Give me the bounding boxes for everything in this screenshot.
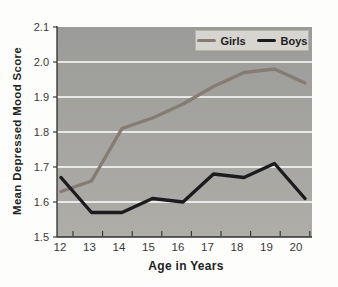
y-tick-label: 1.9 (34, 91, 49, 103)
boys-line-swatch (257, 39, 276, 42)
x-tick-label: 16 (172, 241, 185, 253)
x-tick-label: 14 (113, 241, 126, 253)
y-tick-label: 1.7 (34, 161, 49, 173)
y-tick-label: 2.1 (34, 21, 49, 33)
y-axis-title: Mean Depressed Mood Score (11, 47, 23, 215)
x-axis-title: Age in Years (148, 259, 223, 273)
x-tick-label: 18 (231, 241, 244, 253)
x-tick-label: 17 (201, 241, 214, 253)
x-tick-label: 15 (142, 241, 155, 253)
y-tick-label: 2.0 (34, 56, 49, 68)
legend-item-girls: Girls (197, 35, 246, 47)
girls-line-swatch (197, 39, 216, 42)
depressed-mood-chart: 1.51.61.71.81.92.02.1121314151617181920 … (0, 0, 338, 287)
y-tick-label: 1.8 (34, 126, 49, 138)
x-tick-label: 19 (260, 241, 273, 253)
legend-label-girls: Girls (221, 35, 246, 47)
y-tick-label: 1.5 (34, 231, 49, 243)
x-tick-label: 20 (290, 241, 303, 253)
y-tick-label: 1.6 (34, 196, 49, 208)
legend-label-boys: Boys (281, 35, 308, 47)
legend-item-boys: Boys (257, 35, 308, 47)
x-tick-label: 12 (54, 241, 67, 253)
x-tick-label: 13 (83, 241, 96, 253)
legend: Girls Boys (195, 30, 309, 51)
